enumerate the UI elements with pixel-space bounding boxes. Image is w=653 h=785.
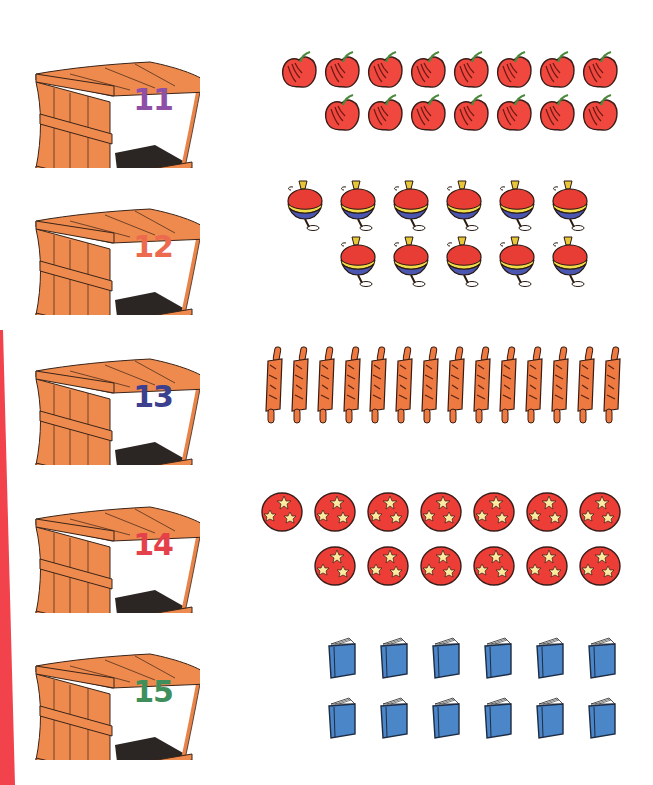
book-line-1	[325, 636, 637, 680]
star-ball-line-1	[260, 491, 631, 533]
star-ball-icon	[578, 491, 631, 533]
rolling-pin-icon	[548, 345, 574, 425]
apple-line-1	[280, 50, 624, 90]
counting-row-11: 11	[0, 38, 653, 188]
spinning-top-icon	[338, 233, 391, 289]
booth: 15	[30, 630, 200, 760]
counting-row-14: 14	[0, 483, 653, 633]
apple-icon	[409, 93, 452, 133]
star-ball-icon	[472, 545, 525, 587]
spinning-top-line-2	[338, 233, 603, 289]
counting-row-15: 15	[0, 630, 653, 780]
booth-number: 11	[118, 82, 188, 117]
apple-icon	[452, 93, 495, 133]
book-icon	[377, 696, 429, 740]
counting-row-12: 12	[0, 185, 653, 335]
book-icon	[377, 636, 429, 680]
book-icon	[325, 696, 377, 740]
rolling-pin-icon	[340, 345, 366, 425]
book-icon	[325, 636, 377, 680]
rolling-pin-icon	[366, 345, 392, 425]
apple-icon	[366, 50, 409, 90]
rolling-pin-icon	[600, 345, 626, 425]
rolling-pin-icon	[574, 345, 600, 425]
booth-number: 15	[118, 674, 188, 709]
star-ball-icon	[419, 491, 472, 533]
apple-icon	[366, 93, 409, 133]
apple-icon	[581, 50, 624, 90]
spinning-top-icon	[338, 177, 391, 233]
spinning-top-line-1	[285, 177, 603, 233]
apple-icon	[538, 50, 581, 90]
rolling-pin-icon	[418, 345, 444, 425]
star-ball-icon	[366, 545, 419, 587]
star-ball-line-2	[313, 545, 631, 587]
spinning-top-icon	[391, 233, 444, 289]
apple-icon	[495, 50, 538, 90]
booth-number: 12	[118, 229, 188, 264]
book-icon	[481, 696, 533, 740]
apple-icon	[280, 50, 323, 90]
star-ball-icon	[578, 545, 631, 587]
booth: 14	[30, 483, 200, 613]
star-ball-icon	[472, 491, 525, 533]
apple-icon	[452, 50, 495, 90]
star-ball-icon	[313, 545, 366, 587]
star-ball-icon	[366, 491, 419, 533]
booth: 12	[30, 185, 200, 315]
star-ball-icon	[260, 491, 313, 533]
apple-icon	[495, 93, 538, 133]
book-icon	[533, 696, 585, 740]
book-icon	[481, 636, 533, 680]
spinning-top-icon	[391, 177, 444, 233]
rolling-pin-icon	[314, 345, 340, 425]
spinning-top-icon	[550, 233, 603, 289]
apple-icon	[538, 93, 581, 133]
booth-number: 14	[118, 527, 188, 562]
book-icon	[429, 636, 481, 680]
booth: 13	[30, 335, 200, 465]
spinning-top-icon	[444, 233, 497, 289]
rolling-pin-icon	[522, 345, 548, 425]
star-ball-icon	[419, 545, 472, 587]
spinning-top-icon	[497, 233, 550, 289]
rolling-pin-icon	[262, 345, 288, 425]
rolling-pin-icon	[288, 345, 314, 425]
apple-icon	[323, 93, 366, 133]
apple-icon	[409, 50, 452, 90]
rolling-pin-icon	[444, 345, 470, 425]
rolling-pin-line-1	[262, 345, 626, 425]
spinning-top-icon	[550, 177, 603, 233]
book-icon	[533, 636, 585, 680]
rolling-pin-icon	[392, 345, 418, 425]
spinning-top-icon	[497, 177, 550, 233]
book-icon	[585, 636, 637, 680]
book-icon	[585, 696, 637, 740]
apple-icon	[323, 50, 366, 90]
book-icon	[429, 696, 481, 740]
rolling-pin-icon	[496, 345, 522, 425]
booth-number: 13	[118, 379, 188, 414]
star-ball-icon	[313, 491, 366, 533]
spinning-top-icon	[444, 177, 497, 233]
counting-row-13: 13	[0, 335, 653, 485]
star-ball-icon	[525, 545, 578, 587]
star-ball-icon	[525, 491, 578, 533]
apple-icon	[581, 93, 624, 133]
booth: 11	[30, 38, 200, 168]
book-line-2	[325, 696, 637, 740]
apple-line-2	[323, 93, 624, 133]
spinning-top-icon	[285, 177, 338, 233]
rolling-pin-icon	[470, 345, 496, 425]
